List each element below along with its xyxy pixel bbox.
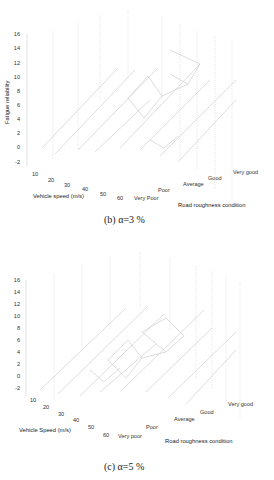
svg-text:10: 10 (32, 171, 38, 177)
y-axis-label: Road roughness condition (165, 438, 232, 444)
svg-text:30: 30 (64, 182, 70, 188)
chart-panel-c: 16 14 12 10 8 6 4 2 0 -2 10 20 30 40 50 … (0, 240, 274, 480)
svg-text:2: 2 (17, 361, 20, 367)
figure-caption-b: (b) α=3 % (104, 214, 145, 225)
svg-text:40: 40 (82, 186, 88, 192)
svg-text:Good: Good (200, 409, 214, 415)
svg-text:60: 60 (117, 195, 123, 201)
svg-text:6: 6 (17, 337, 20, 343)
z-tick-labels: 16 14 12 10 8 6 4 2 0 -2 (14, 31, 20, 165)
svg-text:10: 10 (14, 313, 20, 319)
svg-text:12: 12 (14, 301, 20, 307)
svg-text:20: 20 (43, 404, 49, 410)
svg-text:14: 14 (14, 289, 20, 295)
grid-lines (53, 10, 232, 200)
svg-text:40: 40 (73, 417, 79, 423)
svg-text:Very poor: Very poor (118, 433, 142, 439)
svg-text:0: 0 (17, 144, 20, 150)
svg-text:Good: Good (208, 175, 222, 181)
svg-text:50: 50 (88, 424, 94, 430)
z-tick-labels: 16 14 12 10 8 6 4 2 0 -2 (14, 277, 20, 391)
svg-text:8: 8 (17, 325, 20, 331)
z-axis-label: Fatigue reliability (4, 80, 10, 124)
svg-text:50: 50 (100, 191, 106, 197)
svg-text:8: 8 (17, 88, 20, 94)
figure-caption-c: (c) α=5 % (104, 461, 144, 472)
svg-text:-2: -2 (15, 385, 20, 391)
svg-text:6: 6 (17, 102, 20, 108)
svg-text:-2: -2 (15, 159, 20, 165)
svg-text:16: 16 (14, 31, 20, 37)
svg-text:0: 0 (17, 373, 20, 379)
svg-text:30: 30 (58, 411, 64, 417)
svg-text:16: 16 (14, 277, 20, 283)
svg-text:4: 4 (17, 116, 20, 122)
surface-plot-b: 16 14 12 10 8 6 4 2 0 -2 Fatigue reliabi… (0, 0, 274, 240)
surface-mesh (40, 306, 236, 404)
svg-text:Very Poor: Very Poor (134, 195, 159, 201)
svg-text:60: 60 (103, 432, 109, 438)
svg-text:Poor: Poor (146, 424, 158, 430)
x-axis-label: Vehicle Speed (m/s) (19, 427, 71, 433)
svg-text:Very good: Very good (233, 169, 258, 175)
svg-text:Very good: Very good (228, 401, 253, 407)
svg-text:14: 14 (14, 45, 20, 51)
svg-text:12: 12 (14, 60, 20, 66)
svg-text:20: 20 (48, 177, 54, 183)
surface-plot-c: 16 14 12 10 8 6 4 2 0 -2 10 20 30 40 50 … (0, 240, 274, 480)
svg-text:Poor: Poor (158, 187, 170, 193)
svg-text:10: 10 (14, 74, 20, 80)
svg-text:Average: Average (183, 181, 204, 187)
surface-mesh (42, 50, 236, 162)
y-axis-label: Road roughness condition (178, 202, 245, 208)
svg-text:4: 4 (17, 349, 20, 355)
svg-text:Average: Average (174, 416, 195, 422)
chart-panel-b: 16 14 12 10 8 6 4 2 0 -2 Fatigue reliabi… (0, 0, 274, 240)
svg-text:2: 2 (17, 130, 20, 136)
y-tick-labels: Very Poor Poor Average Good Very good (134, 169, 258, 201)
x-axis-label: Vehicle speed (m/s) (33, 193, 84, 199)
svg-text:10: 10 (30, 397, 36, 403)
y-tick-labels: Very poor Poor Average Good Very good (118, 401, 253, 439)
